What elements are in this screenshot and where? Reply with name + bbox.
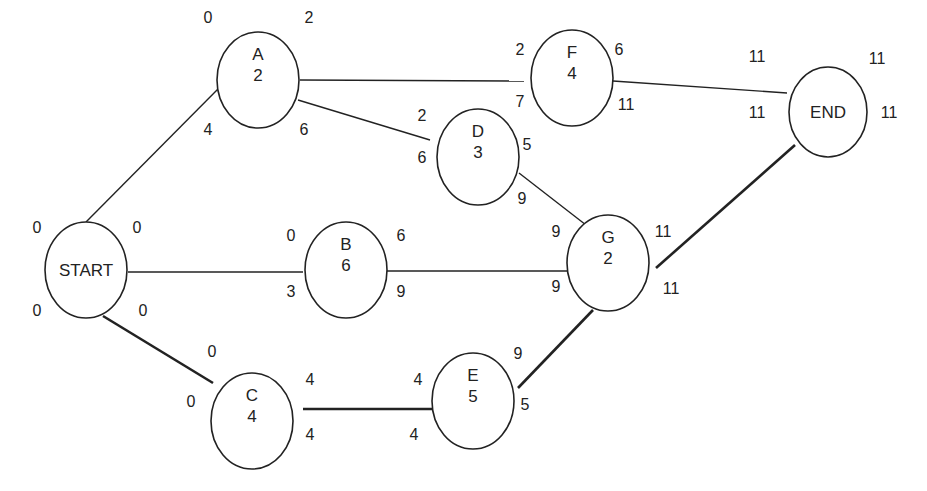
time-lf-end: 11 <box>881 104 898 121</box>
node-duration: 2 <box>603 249 612 268</box>
time-es-a: 0 <box>204 9 213 26</box>
node-g: G2 <box>567 215 649 311</box>
node-name: END <box>810 103 846 122</box>
time-es-start: 0 <box>33 219 42 236</box>
node-name: START <box>59 261 113 280</box>
time-ls-e: 4 <box>410 426 419 443</box>
time-ef-f: 6 <box>615 41 624 58</box>
node-name: E <box>467 366 478 385</box>
time-ef-end: 11 <box>869 50 886 67</box>
time-ef-start: 0 <box>133 219 142 236</box>
edge-start-a <box>86 89 218 222</box>
time-ls-g: 9 <box>552 278 561 295</box>
time-ls-c: 0 <box>187 393 196 410</box>
time-lf-f: 11 <box>618 96 635 113</box>
time-lf-start: 0 <box>139 302 148 319</box>
node-duration: 5 <box>468 387 477 406</box>
time-ef-c: 4 <box>306 371 315 388</box>
nodes-layer: STARTA2B6C4D3E5F4G2END <box>45 30 867 469</box>
edge-a-f <box>300 80 524 81</box>
node-c: C4 <box>211 373 293 469</box>
node-duration: 4 <box>247 407 256 426</box>
node-end: END <box>789 67 867 157</box>
time-lf-b: 9 <box>397 283 406 300</box>
time-lf-e: 5 <box>521 396 530 413</box>
time-es-e: 4 <box>414 371 423 388</box>
edge-d-g <box>519 173 586 225</box>
time-lf-a: 6 <box>300 121 309 138</box>
time-ls-f: 7 <box>516 93 525 110</box>
time-lf-d: 9 <box>518 190 527 207</box>
node-name: F <box>567 43 577 62</box>
time-es-g: 9 <box>552 223 561 240</box>
time-ef-e: 9 <box>514 345 523 362</box>
time-ls-b: 3 <box>287 283 296 300</box>
time-ls-end: 11 <box>749 104 766 121</box>
node-duration: 2 <box>253 66 262 85</box>
time-lf-g: 11 <box>663 280 680 297</box>
time-ls-a: 4 <box>204 121 213 138</box>
time-es-end: 11 <box>749 48 766 65</box>
time-es-f: 2 <box>516 41 525 58</box>
edge-g-end <box>656 145 795 268</box>
node-f: F4 <box>531 30 613 126</box>
node-name: B <box>340 235 351 254</box>
edge-a-d <box>298 100 430 140</box>
time-es-c: 0 <box>208 343 217 360</box>
time-ef-a: 2 <box>305 9 314 26</box>
time-ef-d: 5 <box>523 136 532 153</box>
node-b: B6 <box>305 222 387 318</box>
node-name: C <box>246 386 258 405</box>
node-name: D <box>472 122 484 141</box>
node-duration: 6 <box>341 256 350 275</box>
node-name: G <box>601 228 614 247</box>
time-ef-g: 11 <box>655 223 672 240</box>
time-lf-c: 4 <box>306 426 315 443</box>
time-es-d: 2 <box>418 107 427 124</box>
node-a: A2 <box>217 32 299 128</box>
time-es-b: 0 <box>287 227 296 244</box>
node-name: A <box>252 45 264 64</box>
node-d: D3 <box>437 109 519 205</box>
time-ls-start: 0 <box>33 302 42 319</box>
edge-start-c <box>103 316 213 383</box>
edge-e-g <box>518 310 593 388</box>
node-start: START <box>45 222 127 318</box>
node-duration: 3 <box>473 143 482 162</box>
time-ef-b: 6 <box>397 227 406 244</box>
edges-layer <box>86 80 795 409</box>
edge-f-end <box>613 81 787 93</box>
network-diagram: STARTA2B6C4D3E5F4G2END 00000246063904042… <box>0 0 927 491</box>
time-ls-d: 6 <box>418 149 427 166</box>
node-duration: 4 <box>567 64 576 83</box>
node-e: E5 <box>432 353 514 449</box>
